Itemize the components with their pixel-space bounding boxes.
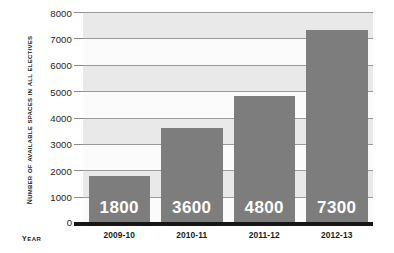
x-axis-title: Year bbox=[22, 232, 41, 243]
y-axis-title: Number of Available Spaces in All Electi… bbox=[22, 14, 36, 226]
y-axis-tick-mark bbox=[74, 197, 83, 198]
y-axis-tick-label: 7000 bbox=[38, 33, 72, 44]
y-axis-tick-label: 2000 bbox=[38, 165, 72, 176]
y-axis-tick-mark bbox=[74, 170, 83, 171]
x-axis-tick-label: 2012-13 bbox=[301, 230, 374, 240]
bar-2011-12[interactable]: 4800 bbox=[234, 96, 296, 223]
y-axis-tick-mark bbox=[74, 12, 83, 13]
x-axis-tick-labels: 2009-102010-112011-122012-13 bbox=[83, 230, 373, 246]
x-axis-tick-label: 2010-11 bbox=[156, 230, 229, 240]
y-axis-tick-label: 6000 bbox=[38, 60, 72, 71]
plot-area: 1800360048007300 bbox=[83, 12, 373, 223]
y-axis-tick-mark bbox=[74, 118, 83, 119]
bar-2010-11[interactable]: 3600 bbox=[161, 128, 223, 223]
y-axis-tick-mark bbox=[74, 91, 83, 92]
y-axis-tick-labels: 80007000600050004000300020001000 bbox=[38, 12, 72, 223]
y-axis-tick-label: 5000 bbox=[38, 86, 72, 97]
y-axis-tick-label: 4000 bbox=[38, 113, 72, 124]
y-axis-tick-label-zero: 0 bbox=[38, 217, 72, 228]
x-axis-tick-label: 2009-10 bbox=[83, 230, 156, 240]
bar-value-label: 4800 bbox=[234, 199, 296, 217]
y-axis-tick-mark bbox=[74, 65, 83, 66]
y-axis-tick-label: 8000 bbox=[38, 7, 72, 18]
y-axis-tick-label: 3000 bbox=[38, 139, 72, 150]
x-axis-line bbox=[74, 222, 373, 226]
bar-2009-10[interactable]: 1800 bbox=[89, 176, 151, 223]
bar-value-label: 7300 bbox=[306, 199, 368, 217]
bar-value-label: 1800 bbox=[89, 199, 151, 217]
gridline bbox=[83, 12, 373, 13]
bar-chart-figure: Number of Available Spaces in All Electi… bbox=[0, 0, 394, 253]
bar-value-label: 3600 bbox=[161, 199, 223, 217]
y-axis-tick-mark bbox=[74, 144, 83, 145]
bar-2012-13[interactable]: 7300 bbox=[306, 30, 368, 223]
y-axis-tick-mark bbox=[74, 38, 83, 39]
x-axis-tick-label: 2011-12 bbox=[228, 230, 301, 240]
y-axis-tick-label: 1000 bbox=[38, 192, 72, 203]
